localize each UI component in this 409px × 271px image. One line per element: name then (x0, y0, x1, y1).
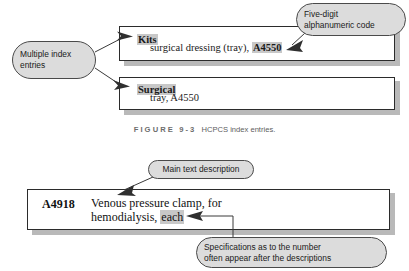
index-entry-box-surgical: Surgical tray, A4550 (119, 77, 395, 110)
callout-main-text-description: Main text description (148, 160, 254, 179)
callout-main-text-line1: Main text description (163, 164, 240, 175)
figure-page: Kits surgical dressing (tray), A4550 Sur… (0, 0, 409, 271)
callout-five-digit-line1: Five-digit (304, 9, 338, 20)
code-description-line2-prefix: hemodialysis, (91, 210, 160, 224)
code-entry-box: A4918 Venous pressure clamp, for hemodia… (27, 189, 390, 230)
index-subentry-surgical: tray, A4550 (150, 92, 199, 103)
callout-five-digit-line2: alphanumeric code (304, 20, 375, 31)
figure-caption: FIGURE 9-3HCPCS index entries. (0, 118, 409, 136)
callout-five-digit-code: Five-digit alphanumeric code (296, 3, 406, 36)
code-identifier: A4918 (42, 197, 75, 212)
callout-specifications: Specifications as to the number often ap… (196, 237, 387, 268)
figure-caption-text: HCPCS index entries. (201, 125, 275, 134)
index-subentry-code-kits: A4550 (252, 42, 283, 53)
code-description-line1: Venous pressure clamp, for (91, 196, 222, 210)
figure-caption-label: FIGURE 9-3 (134, 125, 197, 134)
callout-multiple-line1: Multiple index (20, 49, 71, 60)
connector-multiple-to-surgical (95, 68, 122, 86)
callout-multiple-line2: entries (20, 60, 45, 71)
code-description-line2: hemodialysis, each (91, 210, 222, 224)
code-description-highlight-each: each (160, 210, 184, 224)
index-subentry-kits: surgical dressing (tray), (150, 42, 252, 53)
callout-specifications-line2: often appear after the descriptions (204, 253, 331, 264)
callout-specifications-line1: Specifications as to the number (204, 242, 321, 253)
callout-multiple-index-entries: Multiple index entries (12, 41, 96, 79)
